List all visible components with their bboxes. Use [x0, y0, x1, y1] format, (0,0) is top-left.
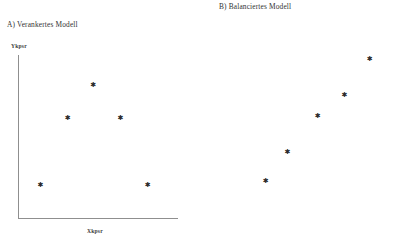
data-point-marker: ✱ — [64, 115, 71, 122]
data-point-marker: ✱ — [366, 56, 373, 63]
panel-a-x-axis-label: Xkpsr — [87, 228, 103, 234]
panel-b-title: B) Balanciertes Modell — [219, 2, 291, 11]
data-point-marker: ✱ — [341, 92, 348, 99]
panel-a-y-axis — [18, 55, 19, 219]
data-point-marker: ✱ — [117, 115, 124, 122]
panel-balanciertes-modell: B) Balanciertes Modell Ykpsr Xkpsr oder:… — [204, 0, 407, 249]
panel-a-x-axis — [18, 218, 178, 219]
data-point-marker: ✱ — [262, 178, 269, 185]
panel-verankertes-modell: A) Verankertes Modell Ykpsr Xkpsr ✱✱✱✱✱ — [0, 0, 204, 249]
data-point-marker: ✱ — [144, 182, 151, 189]
data-point-marker: ✱ — [90, 82, 97, 89]
data-point-marker: ✱ — [284, 149, 291, 156]
figure-container: A) Verankertes Modell Ykpsr Xkpsr ✱✱✱✱✱ … — [0, 0, 407, 249]
panel-a-title: A) Verankertes Modell — [7, 20, 78, 29]
data-point-marker: ✱ — [37, 182, 44, 189]
data-point-marker: ✱ — [314, 113, 321, 120]
panel-a-y-axis-label: Ykpsr — [11, 43, 27, 49]
